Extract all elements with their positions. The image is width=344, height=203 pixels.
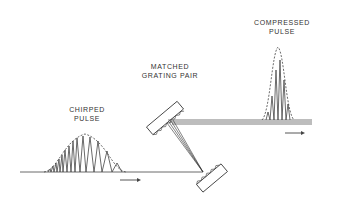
compressed-pulse — [262, 47, 294, 120]
dispersed-beams — [167, 120, 203, 172]
output-beam — [168, 120, 312, 124]
input-direction-arrow — [120, 178, 141, 182]
diagram-graphics — [0, 0, 344, 203]
output-direction-arrow — [285, 131, 305, 135]
chirped-pulse — [44, 134, 126, 172]
pulse-compression-diagram: CHIRPED PULSE MATCHED GRATING PAIR COMPR… — [0, 0, 344, 203]
